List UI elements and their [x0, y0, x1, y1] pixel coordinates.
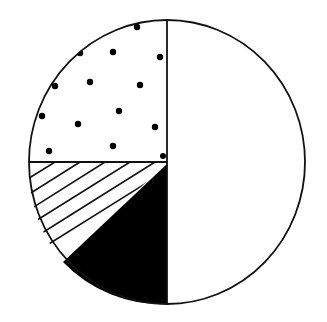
slice-white [167, 20, 305, 304]
pie-chart-diagram [0, 0, 327, 322]
slice-dotted [29, 20, 167, 162]
pie-chart [0, 0, 327, 322]
